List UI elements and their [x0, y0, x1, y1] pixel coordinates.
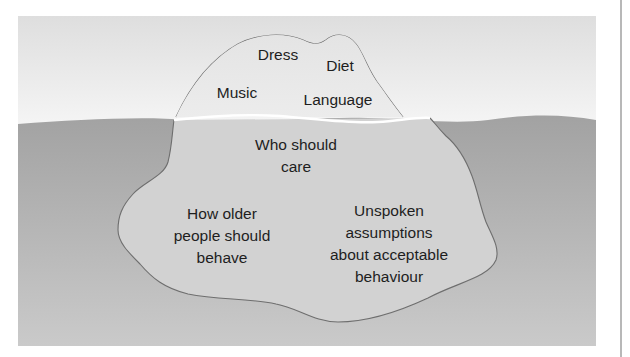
iceberg-illustration: [18, 16, 596, 346]
label-unspoken-assumptions: Unspoken assumptions about acceptable be…: [330, 200, 448, 288]
label-language: Language: [304, 89, 373, 111]
label-line: Unspoken: [330, 200, 448, 222]
iceberg-diagram: Dress Diet Music Language Who should car…: [18, 16, 596, 346]
label-who-should-care: Who should care: [255, 134, 337, 178]
label-music: Music: [217, 82, 257, 104]
label-line: care: [255, 156, 337, 178]
page-divider-line: [620, 0, 622, 357]
label-line: people should: [174, 225, 271, 247]
label-line: How older: [174, 203, 271, 225]
label-how-older-people-should-behave: How older people should behave: [174, 203, 271, 269]
label-line: Who should: [255, 134, 337, 156]
label-line: assumptions: [330, 222, 448, 244]
label-dress: Dress: [258, 44, 298, 66]
label-line: about acceptable: [330, 244, 448, 266]
label-line: behave: [174, 247, 271, 269]
label-diet: Diet: [326, 55, 354, 77]
label-line: behaviour: [330, 266, 448, 288]
